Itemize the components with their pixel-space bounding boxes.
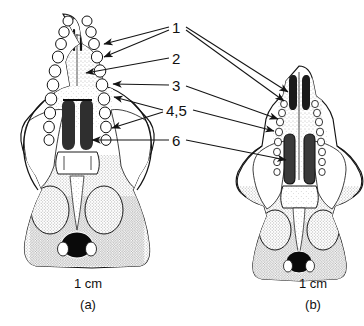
skull-b-occipital-condyle-right xyxy=(306,260,315,272)
panel-a-scale-label: 1 cm xyxy=(58,277,118,290)
panel-b-id-label: (b) xyxy=(283,298,343,311)
label-6: 6 xyxy=(172,133,180,148)
skull-b-incisive-foramen-left xyxy=(289,75,297,110)
skull-a-palatal-foramen-right xyxy=(80,100,93,150)
skull-b-palatal-vacuity-left xyxy=(284,134,295,184)
panel-b-scale-label: 1 cm xyxy=(283,277,343,290)
skull-b-mesopterygoid-fossa xyxy=(281,186,319,208)
skull-a-bulla-right xyxy=(85,186,123,234)
skull-a-occipital-condyle-left xyxy=(58,242,69,256)
label-2: 2 xyxy=(172,51,180,66)
label-3: 3 xyxy=(172,78,180,93)
label-1: 1 xyxy=(172,20,180,35)
label-4-5: 4,5 xyxy=(166,103,187,118)
skull-a-occipital-condyle-right xyxy=(86,242,97,256)
skull-a-palatal-foramen-left xyxy=(62,100,75,150)
skull-a-mesopterygoid-fossa xyxy=(56,152,100,174)
skull-b-occipital-condyle-left xyxy=(284,260,293,272)
skull-b-palatal-vacuity-right xyxy=(304,134,315,184)
panel-a-id-label: (a) xyxy=(58,298,118,311)
skull-b-incisive-foramen-right xyxy=(302,75,310,110)
